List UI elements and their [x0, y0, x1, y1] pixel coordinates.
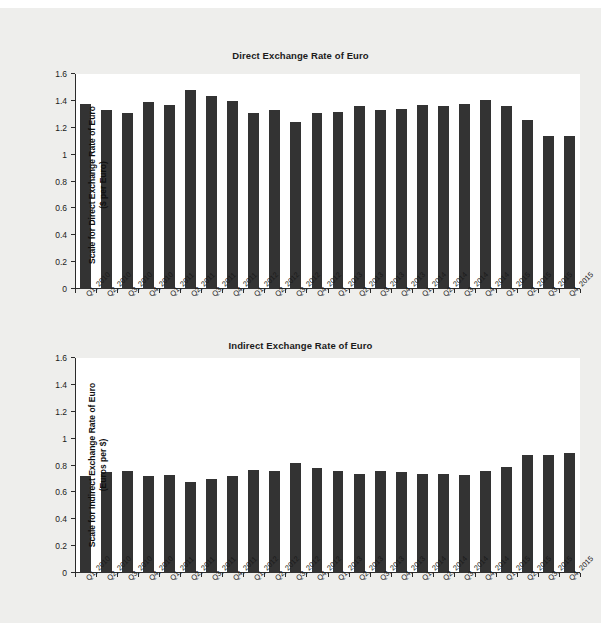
- y-tick-direct-5: [71, 154, 75, 155]
- x-tick-indirect-end: [580, 573, 581, 577]
- x-tick-indirect-22: [538, 573, 539, 577]
- bar-direct-10: [290, 122, 301, 289]
- x-tick-direct-13: [349, 289, 350, 293]
- y-tick-direct-7: [71, 100, 75, 101]
- y-tick-direct-2: [71, 234, 75, 235]
- y-axis-title-direct-line1: Scale for Direct Exchange Rate of Euro: [87, 106, 97, 264]
- plot-area-direct: Q1, 2010Q2, 2010Q3, 2010Q4, 2010Q1, 2011…: [75, 74, 580, 289]
- bar-direct-14: [375, 110, 386, 289]
- chart-page: Direct Exchange Rate of Euro Q1, 2010Q2,…: [0, 0, 601, 623]
- y-tick-label-indirect-5: 1: [62, 434, 67, 444]
- x-tick-indirect-14: [370, 573, 371, 577]
- x-tick-direct-12: [328, 289, 329, 293]
- y-tick-label-direct-4: 0.8: [55, 177, 67, 187]
- y-tick-label-indirect-2: 0.4: [55, 514, 67, 524]
- x-tick-direct-23: [559, 289, 560, 293]
- x-tick-indirect-21: [517, 573, 518, 577]
- y-tick-indirect-7: [71, 384, 75, 385]
- y-axis-title-direct: Scale for Direct Exchange Rate of Euro (…: [87, 90, 109, 280]
- x-tick-indirect-8: [243, 573, 244, 577]
- y-tick-label-indirect-0: 0: [62, 568, 67, 578]
- x-tick-indirect-17: [433, 573, 434, 577]
- bar-direct-2: [122, 113, 133, 289]
- bar-direct-3: [143, 102, 154, 289]
- x-tick-indirect-6: [201, 573, 202, 577]
- y-tick-label-indirect-4: 0.8: [55, 461, 67, 471]
- bar-direct-11: [312, 113, 323, 289]
- x-tick-direct-11: [306, 289, 307, 293]
- x-tick-direct-17: [433, 289, 434, 293]
- x-axis-labels-indirect: Q1, 2010Q2, 2010Q3, 2010Q4, 2010Q1, 2011…: [75, 573, 580, 623]
- bar-direct-22: [543, 136, 554, 289]
- y-tick-label-indirect-6: 1.2: [55, 407, 67, 417]
- y-axis-title-indirect: Scale for Indirect Exchange Rate of Euro…: [87, 370, 109, 560]
- y-tick-label-direct-8: 1.6: [55, 69, 67, 79]
- x-tick-direct-18: [454, 289, 455, 293]
- x-tick-direct-4: [159, 289, 160, 293]
- y-tick-indirect-5: [71, 438, 75, 439]
- bar-direct-23: [564, 136, 575, 289]
- chart-title-direct: Direct Exchange Rate of Euro: [0, 50, 601, 61]
- bar-direct-4: [164, 105, 175, 289]
- x-tick-indirect-3: [138, 573, 139, 577]
- x-tick-direct-3: [138, 289, 139, 293]
- y-tick-direct-8: [71, 73, 75, 74]
- x-tick-direct-8: [243, 289, 244, 293]
- bar-direct-13: [354, 106, 365, 289]
- y-tick-label-direct-3: 0.6: [55, 203, 67, 213]
- x-tick-indirect-11: [306, 573, 307, 577]
- y-tick-direct-4: [71, 181, 75, 182]
- y-axis-title-direct-line2: ($ per Euro): [98, 161, 108, 209]
- chart-direct-exchange-rate: Direct Exchange Rate of Euro Q1, 2010Q2,…: [0, 50, 601, 340]
- x-tick-indirect-2: [117, 573, 118, 577]
- x-tick-direct-5: [180, 289, 181, 293]
- y-axis-title-indirect-line1: Scale for Indirect Exchange Rate of Euro: [87, 383, 97, 547]
- bars-container-indirect: [75, 358, 580, 573]
- y-tick-label-indirect-1: 0.2: [55, 541, 67, 551]
- bar-direct-12: [333, 112, 344, 289]
- x-tick-direct-9: [264, 289, 265, 293]
- y-tick-indirect-2: [71, 518, 75, 519]
- bar-direct-15: [396, 109, 407, 289]
- x-tick-direct-14: [370, 289, 371, 293]
- x-tick-direct-0: [75, 289, 76, 293]
- bars-container-direct: [75, 74, 580, 289]
- x-tick-direct-21: [517, 289, 518, 293]
- x-tick-indirect-0: [75, 573, 76, 577]
- y-tick-indirect-6: [71, 411, 75, 412]
- bar-direct-16: [417, 105, 428, 289]
- y-tick-label-direct-2: 0.4: [55, 230, 67, 240]
- y-tick-indirect-3: [71, 491, 75, 492]
- y-tick-direct-1: [71, 261, 75, 262]
- y-tick-direct-6: [71, 127, 75, 128]
- bar-direct-17: [438, 106, 449, 289]
- x-tick-indirect-16: [412, 573, 413, 577]
- bar-direct-9: [269, 110, 280, 289]
- x-tick-indirect-9: [264, 573, 265, 577]
- x-tick-direct-6: [201, 289, 202, 293]
- chart-indirect-exchange-rate: Indirect Exchange Rate of Euro Q1, 2010Q…: [0, 340, 601, 623]
- x-tick-indirect-13: [349, 573, 350, 577]
- x-tick-indirect-19: [475, 573, 476, 577]
- chart-title-indirect: Indirect Exchange Rate of Euro: [0, 340, 601, 351]
- bar-direct-18: [459, 104, 470, 289]
- x-tick-direct-7: [222, 289, 223, 293]
- y-tick-indirect-4: [71, 465, 75, 466]
- bar-direct-7: [227, 101, 238, 289]
- x-tick-direct-20: [496, 289, 497, 293]
- x-tick-indirect-12: [328, 573, 329, 577]
- x-tick-direct-end: [580, 289, 581, 293]
- x-tick-indirect-23: [559, 573, 560, 577]
- bar-direct-20: [501, 106, 512, 289]
- x-tick-indirect-1: [96, 573, 97, 577]
- x-tick-direct-16: [412, 289, 413, 293]
- bar-direct-5: [185, 90, 196, 289]
- bar-direct-21: [522, 120, 533, 289]
- y-tick-indirect-1: [71, 545, 75, 546]
- bar-direct-8: [248, 113, 259, 289]
- x-tick-direct-19: [475, 289, 476, 293]
- bar-direct-19: [480, 100, 491, 289]
- x-tick-direct-2: [117, 289, 118, 293]
- x-tick-indirect-5: [180, 573, 181, 577]
- y-tick-label-direct-5: 1: [62, 150, 67, 160]
